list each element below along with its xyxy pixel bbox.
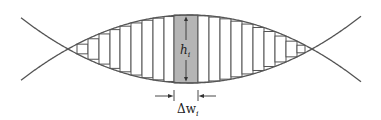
approximating-rectangle [120,26,131,72]
approximating-rectangle [209,17,220,81]
approximating-rectangle [164,17,174,82]
width-dimension [155,90,216,101]
approximating-rectangles [77,15,305,83]
approximating-rectangle [198,16,209,82]
approximating-rectangle [131,23,142,75]
approximating-rectangle [99,34,110,64]
approximating-rectangle [275,36,286,62]
approximating-rectangle [242,24,253,74]
area-between-curves-diagram: hi Δwi [0,0,381,120]
approximating-rectangle [142,20,153,77]
approximating-rectangle [153,18,164,80]
approximating-rectangle [220,19,231,79]
approximating-rectangle [297,45,305,53]
approximating-rectangle [286,41,297,57]
approximating-rectangle [110,30,120,69]
approximating-rectangle [77,44,88,54]
approximating-rectangle [264,32,275,67]
width-label: Δwi [177,102,199,118]
approximating-rectangle [231,21,242,77]
approximating-rectangle [253,28,264,71]
approximating-rectangle [88,39,99,59]
